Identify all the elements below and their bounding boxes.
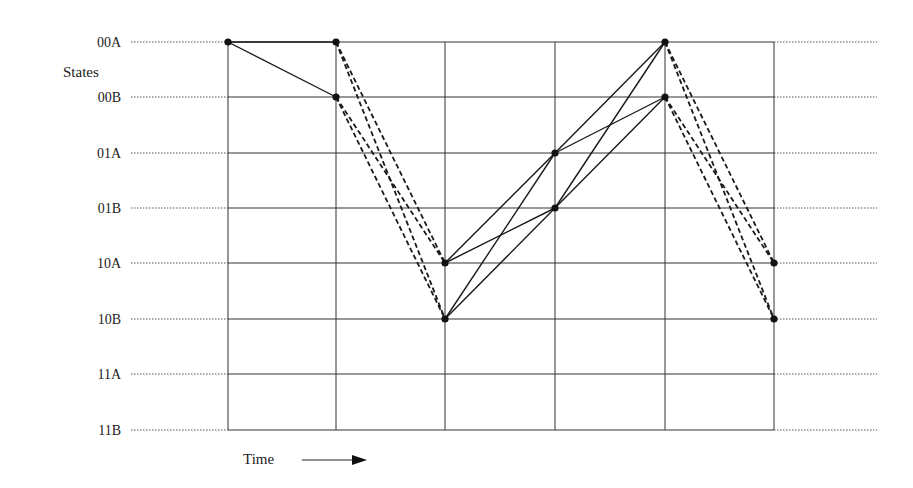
transition-dashed [336, 97, 445, 263]
state-label-00A: 00A [97, 35, 122, 50]
node-t1-00B [332, 93, 339, 100]
transition-solid [555, 42, 665, 208]
node-t5-10A [770, 259, 777, 266]
grid [131, 42, 877, 430]
node-t3-01B [551, 204, 558, 211]
node-t2-10A [441, 259, 448, 266]
node-t5-10B [770, 315, 777, 322]
state-labels: 00A00B01A01B10A10B11A11B [97, 35, 122, 438]
transition-solid [445, 153, 555, 319]
right-arrow-icon [302, 455, 367, 465]
node-t1-00A [332, 38, 339, 45]
transitions [228, 42, 774, 319]
node-t3-01A [551, 149, 558, 156]
state-label-01B: 01B [98, 201, 121, 216]
state-time-diagram: 00A00B01A01B10A10B11A11B States Time [0, 0, 913, 488]
x-axis-title: Time [243, 451, 274, 467]
state-label-00B: 00B [98, 90, 121, 105]
state-label-10B: 10B [98, 312, 121, 327]
y-axis-title: States [63, 64, 99, 80]
node-t2-10B [441, 315, 448, 322]
nodes [224, 38, 777, 322]
state-label-11A: 11A [97, 367, 121, 382]
state-label-10A: 10A [97, 256, 122, 271]
transition-solid [228, 42, 336, 97]
node-t0-00A [224, 38, 231, 45]
transition-dashed [665, 97, 774, 263]
node-t4-00A [661, 38, 668, 45]
node-t4-00B [661, 93, 668, 100]
state-label-11B: 11B [98, 423, 121, 438]
state-label-01A: 01A [97, 146, 122, 161]
